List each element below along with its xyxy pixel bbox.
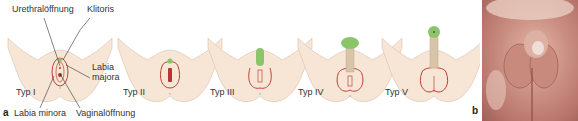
panel-letter-b: b: [472, 105, 478, 116]
stage-label-2: Typ II: [123, 87, 145, 97]
label-urethral-opening: Urethralöffnung: [12, 4, 74, 14]
label-labia-minora: Labia minora: [14, 108, 66, 118]
stage-label-1: Typ I: [16, 87, 36, 97]
stage-label-5: Typ V: [385, 87, 408, 97]
label-labia-majora-line2: majora: [92, 72, 120, 82]
prader-stage-illustrations: [0, 0, 480, 121]
panel-letter-a: a: [3, 107, 9, 118]
clinical-photograph: [482, 0, 578, 121]
stage-label-3: Typ III: [210, 87, 235, 97]
label-vaginal-opening: Vaginalöffnung: [76, 108, 135, 118]
label-clitoris: Klitoris: [87, 4, 114, 14]
stage-label-4: Typ IV: [298, 87, 324, 97]
label-labia-majora-line1: Labia: [92, 62, 114, 72]
